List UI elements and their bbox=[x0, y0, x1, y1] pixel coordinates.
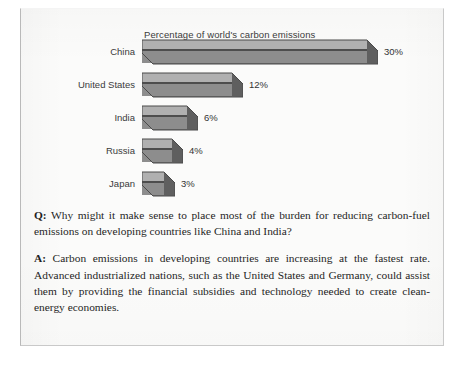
question-tag: Q: bbox=[34, 209, 47, 221]
bar-value-label: 12% bbox=[249, 79, 268, 90]
bar-row: United States 12% bbox=[21, 72, 443, 98]
question-answer-block: Q: Why might it make sense to place most… bbox=[34, 207, 430, 315]
bar-shape-icon bbox=[142, 105, 198, 131]
bar-graphic[interactable] bbox=[142, 72, 243, 98]
bar-value-label: 6% bbox=[204, 112, 218, 123]
bar-graphic[interactable] bbox=[142, 39, 378, 65]
bar-category-label: India bbox=[114, 112, 135, 123]
bar-value-label: 4% bbox=[189, 145, 203, 156]
bar-shape-icon bbox=[142, 171, 175, 197]
bar-row: Japan 3% bbox=[21, 171, 443, 197]
bar-category-label: United States bbox=[78, 79, 135, 90]
question-paragraph: Q: Why might it make sense to place most… bbox=[34, 207, 430, 239]
bar-graphic[interactable] bbox=[142, 105, 198, 131]
answer-tag: A: bbox=[34, 252, 46, 264]
bar-graphic[interactable] bbox=[142, 138, 183, 164]
question-text: Why might it make sense to place most of… bbox=[34, 209, 430, 237]
content-panel: Percentage of world's carbon emissions C… bbox=[20, 8, 444, 346]
bar-category-label: Japan bbox=[109, 178, 135, 189]
bar-shape-icon bbox=[142, 39, 378, 65]
bar-category-label: Russia bbox=[106, 145, 135, 156]
answer-text: Carbon emissions in developing countries… bbox=[34, 252, 430, 313]
bar-category-label: China bbox=[110, 46, 135, 57]
page-root: Percentage of world's carbon emissions C… bbox=[0, 0, 463, 368]
bar-shape-icon bbox=[142, 138, 183, 164]
bar-value-label: 30% bbox=[384, 46, 403, 57]
bar-row: Russia 4% bbox=[21, 138, 443, 164]
bar-row: China 30% bbox=[21, 39, 443, 65]
bar-value-label: 3% bbox=[181, 178, 195, 189]
answer-paragraph: A: Carbon emissions in developing countr… bbox=[34, 250, 430, 315]
bar-shape-icon bbox=[142, 72, 243, 98]
carbon-emissions-bar-chart: Percentage of world's carbon emissions C… bbox=[21, 9, 443, 195]
bar-graphic[interactable] bbox=[142, 171, 175, 197]
bar-row: India 6% bbox=[21, 105, 443, 131]
